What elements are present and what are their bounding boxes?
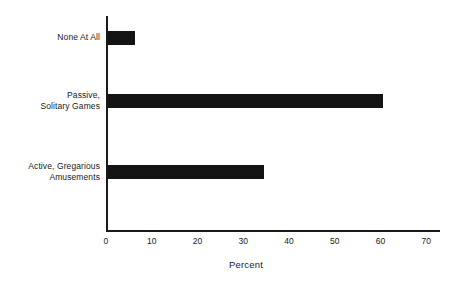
plot-area xyxy=(108,16,440,231)
bar-chart: Percent None At AllPassive, Solitary Gam… xyxy=(0,0,455,285)
bar-row xyxy=(108,94,383,108)
x-axis-title-label: Percent xyxy=(229,259,263,270)
x-tick-label: 0 xyxy=(91,236,121,246)
bar-row xyxy=(108,165,264,179)
x-tick-label: 30 xyxy=(228,236,258,246)
bar xyxy=(108,31,135,45)
x-tick-label: 70 xyxy=(411,236,441,246)
bar xyxy=(108,165,264,179)
bar-row xyxy=(108,31,135,45)
x-axis-title: Percent xyxy=(0,259,455,270)
category-label: Active, Gregarious Amusements xyxy=(2,161,100,182)
category-label: None At All xyxy=(2,32,100,43)
x-tick-label: 60 xyxy=(366,236,396,246)
x-tick-label: 10 xyxy=(137,236,167,246)
x-tick-label: 20 xyxy=(183,236,213,246)
x-tick-label: 40 xyxy=(274,236,304,246)
x-tick-label: 50 xyxy=(320,236,350,246)
category-label: Passive, Solitary Games xyxy=(2,90,100,111)
bar xyxy=(108,94,383,108)
